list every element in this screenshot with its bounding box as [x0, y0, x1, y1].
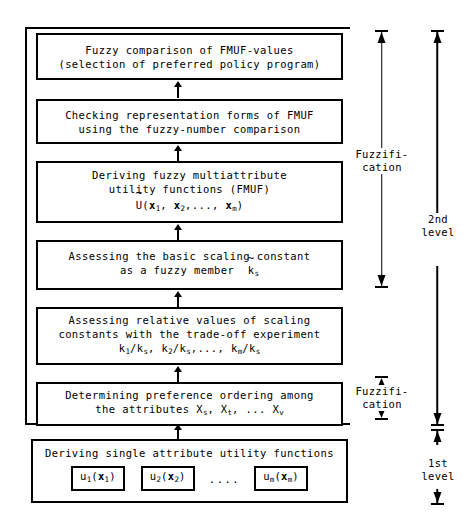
measure-fuzzification-upper-top-cap	[375, 30, 388, 44]
measure-first-level-label-line-2: level	[421, 470, 454, 482]
box-deriving-fmuf-line-1: Deriving fuzzy multiattribute	[92, 168, 287, 182]
second-level-group-frame	[25, 27, 350, 425]
box-deriving-fmuf: Deriving fuzzy multiattribute utility fu…	[36, 161, 343, 223]
box-relative-values-line-2: constants with the trade-off experiment	[58, 327, 320, 341]
box-preference-ordering-line-1: Determining preference ordering among	[65, 388, 314, 402]
measure-first-level-top-cap	[431, 429, 444, 443]
measure-second-level-label-line-1: 2nd	[428, 213, 448, 225]
connector-arrow-2	[177, 149, 179, 161]
box-basic-scaling-constant-line-1: Assessing the basic scaling constant	[69, 249, 311, 263]
measure-fuzzification-upper-label-line-2: cation	[362, 161, 402, 173]
utility-boxes-ellipsis: ....	[195, 472, 254, 486]
measure-second-level-label-line-2: level	[421, 226, 454, 238]
box-checking-representation: Checking representation forms of FMUF us…	[36, 99, 343, 144]
measure-fuzzification-lower-label-line-1: Fuzzifi-	[356, 385, 409, 397]
utility-box-u2: u2(x2)	[141, 466, 195, 491]
box-basic-scaling-constant-line-2: as a fuzzy member ~ks	[120, 263, 259, 281]
measure-second-level-top-cap	[431, 30, 444, 44]
measure-second-level-bottom-cap	[431, 412, 444, 426]
box-relative-values-formula: k1/ks, k2/ks,..., km/ks	[119, 341, 260, 359]
measure-fuzzification-lower-label-line-2: cation	[362, 398, 402, 410]
measure-first-level-label-line-1: 1st	[428, 457, 448, 469]
measure-fuzzification-upper-label-line-1: Fuzzifi-	[356, 148, 409, 160]
measure-fuzzification-lower-label: Fuzzifi- cation	[350, 385, 414, 411]
box-preference-ordering-line-2: the attributes Xs, Xt, ... Xv	[95, 402, 283, 420]
box-fuzzy-comparison-line-1: Fuzzy comparison of FMUF-values	[85, 43, 293, 57]
box-relative-values-line-1: Assessing relative values of scaling	[69, 313, 311, 327]
measure-first-level-bottom-cap	[431, 491, 444, 505]
box-relative-values: Assessing relative values of scaling con…	[36, 307, 343, 365]
measure-fuzzification-lower-top-cap	[375, 376, 388, 385]
measure-fuzzification-lower-bottom-cap	[375, 411, 388, 420]
box-basic-scaling-constant: Assessing the basic scaling constant as …	[36, 240, 343, 290]
connector-arrow-6	[177, 428, 179, 439]
box-preference-ordering: Determining preference ordering among th…	[36, 382, 343, 426]
box-fuzzy-comparison: Fuzzy comparison of FMUF-values (selecti…	[36, 33, 343, 80]
connector-arrow-1	[177, 85, 179, 98]
connector-arrow-3	[177, 228, 179, 240]
connector-arrow-5	[177, 370, 179, 382]
utility-box-u1: u1(x1)	[71, 466, 125, 491]
box-deriving-fmuf-formula: ~U(x1, x2,..., xm)	[136, 198, 244, 216]
utility-function-row: u1(x1) u2(x2) .... um(xm)	[71, 466, 308, 491]
box-fuzzy-comparison-line-2: (selection of preferred policy program)	[58, 57, 320, 71]
box-checking-representation-line-2: using the fuzzy-number comparison	[79, 122, 301, 136]
flowchart-canvas: Fuzzy comparison of FMUF-values (selecti…	[0, 0, 475, 518]
box-single-attribute-line-1: Deriving single attribute utility functi…	[45, 446, 334, 460]
box-checking-representation-line-1: Checking representation forms of FMUF	[65, 108, 314, 122]
connector-arrow-4	[177, 295, 179, 307]
measure-second-level-label: 2nd level	[407, 213, 469, 239]
utility-box-um: um(xm)	[254, 466, 308, 491]
measure-first-level-label: 1st level	[407, 457, 469, 483]
measure-fuzzification-upper-label: Fuzzifi- cation	[350, 148, 414, 174]
measure-fuzzification-upper-bottom-cap	[375, 274, 388, 288]
box-single-attribute: Deriving single attribute utility functi…	[31, 439, 348, 503]
box-deriving-fmuf-line-2: utility functions (FMUF)	[109, 182, 270, 196]
